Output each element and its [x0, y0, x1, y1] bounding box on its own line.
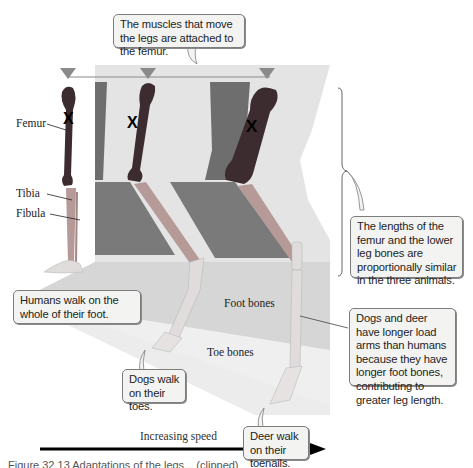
callout-load-arms: Dogs and deer have longer load arms than…: [349, 308, 456, 386]
proportion-bracket: [338, 88, 347, 276]
callout-femur-muscles: The muscles that move the legs are attac…: [113, 14, 245, 48]
speed-arrow-head: [310, 443, 326, 455]
callout-human-walk-text: Humans walk on the whole of their foot.: [20, 294, 119, 320]
label-tibia: Tibia: [16, 187, 40, 199]
callout-human-walk: Humans walk on the whole of their foot.: [13, 290, 141, 324]
figure-caption: Figure 32.13 Adaptations of the legs... …: [8, 459, 239, 468]
label-toe-bones: Toe bones: [207, 346, 254, 358]
label-femur: Femur: [16, 117, 46, 129]
callout-proportions: The lengths of the femur and the lower l…: [350, 216, 463, 278]
callout-proportions-text: The lengths of the femur and the lower l…: [357, 220, 456, 286]
callout-deer-walk: Deer walk on their toenails.: [243, 426, 309, 460]
pivot-x-deer: X: [246, 117, 258, 136]
callout-dog-walk: Dogs walk on their toes.: [122, 369, 186, 403]
pivot-x-human: X: [63, 110, 74, 127]
label-foot-bones: Foot bones: [224, 297, 275, 309]
leg-adaptation-diagram: X X X The muscles that move the legs are…: [0, 0, 473, 468]
label-fibula: Fibula: [16, 207, 45, 219]
speed-label: Increasing speed: [140, 430, 217, 442]
pivot-x-dog: X: [127, 114, 138, 131]
